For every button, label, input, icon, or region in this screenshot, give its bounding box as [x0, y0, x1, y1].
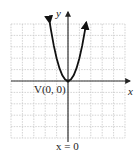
- vertex-label: V(0, 0): [34, 83, 66, 96]
- axis-of-symmetry-label: x = 0: [56, 140, 79, 152]
- parabola-graph: y x V(0, 0) x = 0: [0, 0, 140, 152]
- y-axis-label: y: [55, 7, 61, 19]
- vertex-point: [66, 79, 69, 82]
- x-axis-label: x: [127, 85, 133, 97]
